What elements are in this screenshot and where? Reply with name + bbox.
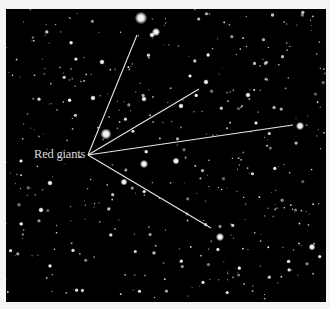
bright-star — [121, 179, 128, 186]
bright-star — [188, 74, 192, 78]
bright-star — [245, 92, 251, 98]
bright-star — [140, 160, 148, 168]
bright-star — [149, 32, 155, 38]
pointer-line — [88, 155, 211, 228]
bright-star — [38, 207, 44, 213]
bright-star — [309, 244, 316, 251]
bright-star — [254, 121, 258, 125]
bright-star — [99, 59, 105, 65]
bright-star — [47, 180, 53, 186]
bright-star — [173, 158, 180, 165]
bright-star — [203, 79, 209, 85]
pointer-line — [88, 35, 137, 155]
bright-star — [141, 96, 147, 102]
bright-star — [135, 12, 148, 25]
red-giants-label: Red giants — [34, 147, 85, 162]
bright-star — [178, 103, 184, 109]
pointer-line — [88, 125, 293, 155]
bright-star — [296, 122, 304, 130]
bright-star — [216, 233, 224, 241]
bright-star — [100, 128, 111, 139]
bright-star — [90, 95, 96, 101]
bright-star — [19, 159, 23, 163]
